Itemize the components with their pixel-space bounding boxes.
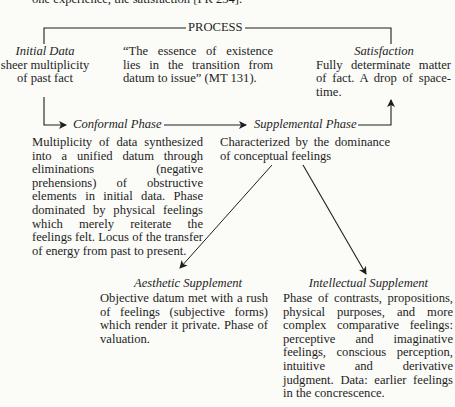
satisfaction-node: Satisfaction Fully determinate matter of…	[316, 45, 455, 99]
conformal-phase-text: Multiplicity of data synthesized into a …	[32, 136, 203, 258]
preceding-text-fragment: one experience, the satisfaction [PR 234…	[32, 0, 242, 7]
initial-data-line-2: of past fact	[0, 72, 90, 86]
supplemental-phase-title: Supplemental Phase	[254, 118, 356, 132]
initial-data-title: Initial Data	[0, 45, 90, 59]
arrow-initial-to-conformal	[44, 97, 66, 125]
satisfaction-title: Satisfaction	[316, 45, 444, 59]
aesthetic-supplement-text: Objective datum met with a rush of feeli…	[100, 292, 268, 346]
process-label: PROCESS	[186, 21, 245, 35]
arrow-supplemental-to-satisfaction	[358, 100, 391, 125]
satisfaction-text: Fully determinate matter of fact. A drop…	[316, 59, 455, 100]
intellectual-supplement-title: Intellectual Supplement	[282, 277, 455, 291]
aesthetic-supplement-title: Aesthetic Supplement	[104, 277, 272, 291]
conformal-phase-title: Conformal Phase	[73, 118, 162, 132]
process-quote: “The essence of existence lies in the tr…	[123, 45, 273, 86]
arrow-to-intellectual	[303, 165, 366, 274]
initial-data-node: Initial Data sheer multiplicity of past …	[0, 45, 90, 86]
intellectual-supplement-text: Phase of contrasts, propositions, physic…	[283, 292, 453, 401]
supplemental-phase-text: Characterized by the dominance of concep…	[220, 136, 390, 163]
initial-data-line-1: sheer multiplicity	[0, 59, 90, 73]
